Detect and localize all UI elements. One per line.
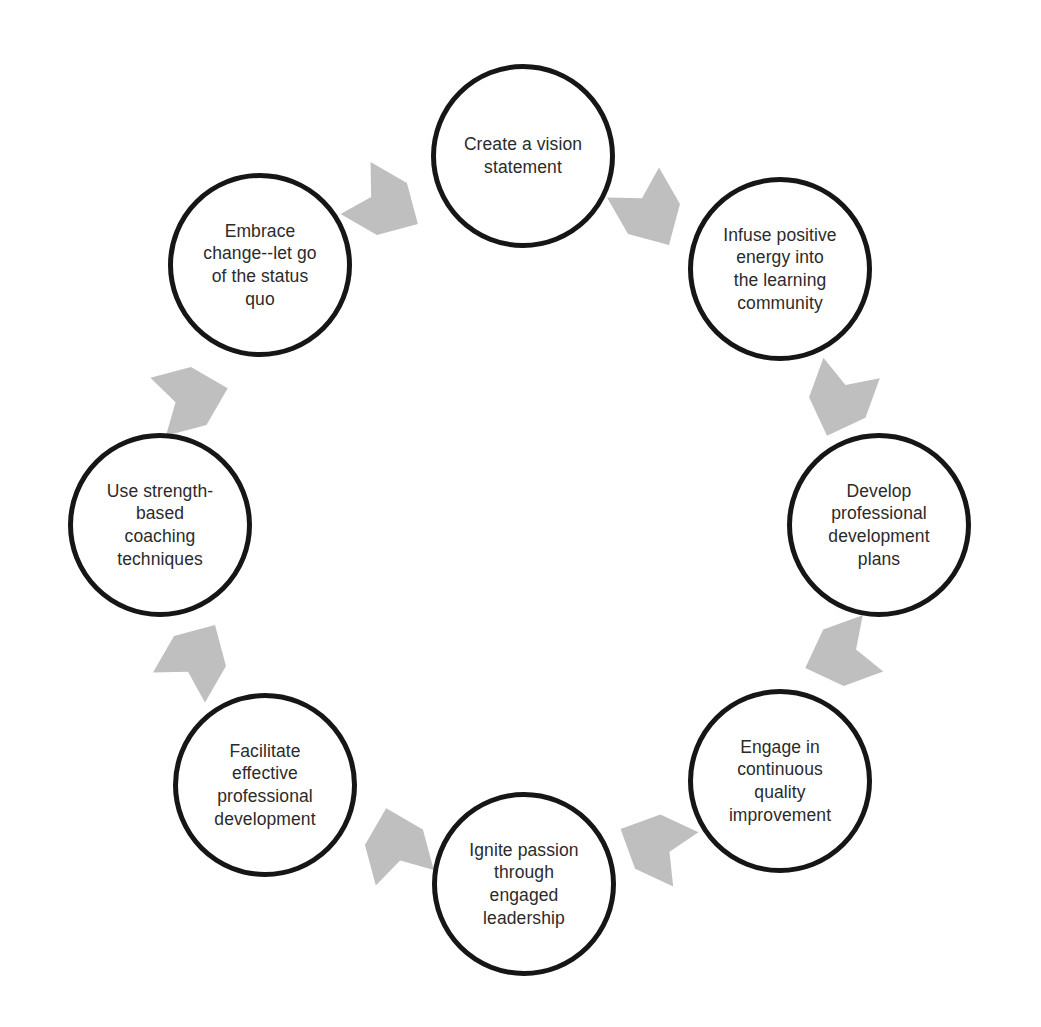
cycle-node-label: Facilitate effective professional develo… <box>204 740 325 831</box>
cycle-node-label: Develop professional development plans <box>818 480 939 571</box>
cycle-node-label: Use strength- based coaching techniques <box>97 480 223 571</box>
cycle-node-ignite-passion-through-engaged-leadership[interactable]: Ignite passion through engaged leadershi… <box>432 792 616 976</box>
arrow-vision-to-infuse <box>607 168 695 260</box>
cycle-node-infuse-positive-energy[interactable]: Infuse positive energy into the learning… <box>688 177 872 361</box>
cycle-diagram: Create a vision statement Infuse positiv… <box>0 0 1041 1027</box>
cycle-node-embrace-change-let-go-of-status-quo[interactable]: Embrace change--let go of the status quo <box>168 173 352 357</box>
cycle-node-label: Create a vision statement <box>454 133 592 179</box>
arrow-engage-to-ignite <box>608 802 699 887</box>
arrow-embrace-to-vision <box>341 162 433 250</box>
cycle-node-label: Embrace change--let go of the status quo <box>193 220 326 311</box>
cycle-node-facilitate-effective-professional-development[interactable]: Facilitate effective professional develo… <box>173 693 357 877</box>
arrow-facilitate-to-coaching <box>153 610 241 702</box>
cycle-node-label: Engage in continuous quality improvement <box>719 736 841 827</box>
cycle-node-use-strength-based-coaching-techniques[interactable]: Use strength- based coaching techniques <box>68 433 252 617</box>
arrow-coaching-to-embrace <box>150 359 235 436</box>
cycle-node-create-a-vision-statement[interactable]: Create a vision statement <box>431 64 615 248</box>
arrow-ignite-to-facilitate <box>357 801 434 886</box>
cycle-node-label: Ignite passion through engaged leadershi… <box>459 839 588 930</box>
cycle-node-engage-in-continuous-quality-improvement[interactable]: Engage in continuous quality improvement <box>688 689 872 873</box>
arrow-develop-to-engage <box>795 615 883 696</box>
cycle-node-develop-professional-development-plans[interactable]: Develop professional development plans <box>787 433 971 617</box>
cycle-node-label: Infuse positive energy into the learning… <box>713 224 846 315</box>
